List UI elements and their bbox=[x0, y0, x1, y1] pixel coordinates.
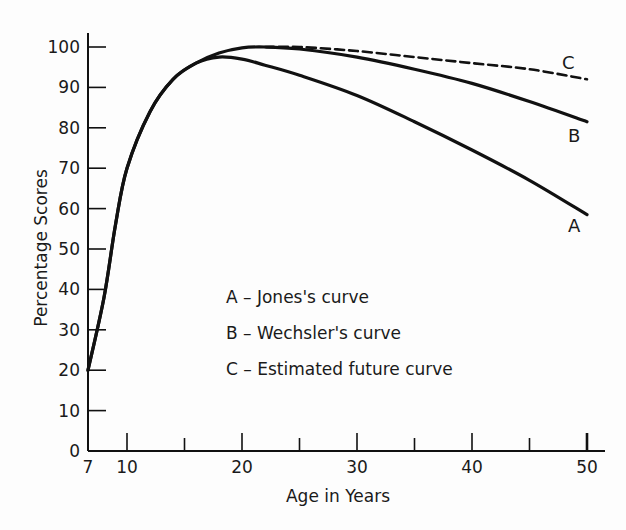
y-tick-label: 70 bbox=[58, 158, 80, 178]
y-tick-label: 50 bbox=[58, 239, 80, 259]
curve-label-a: A bbox=[568, 215, 581, 236]
legend-item-b: B – Wechsler's curve bbox=[226, 323, 401, 343]
y-tick-label: 40 bbox=[58, 279, 80, 299]
y-tick-label: 20 bbox=[58, 360, 80, 380]
y-tick-label: 90 bbox=[58, 77, 80, 97]
curve-b bbox=[88, 47, 587, 370]
x-tick-label: 10 bbox=[116, 457, 138, 477]
y-tick-label: 0 bbox=[69, 441, 80, 461]
legend: A – Jones's curve B – Wechsler's curve C… bbox=[226, 287, 453, 379]
x-tick-label: 30 bbox=[346, 457, 368, 477]
y-tick-label: 30 bbox=[58, 320, 80, 340]
chart-canvas: 0102030405060708090100 71020304050 Age i… bbox=[0, 0, 626, 530]
legend-item-c: C – Estimated future curve bbox=[226, 359, 453, 379]
y-axis-title: Percentage Scores bbox=[31, 169, 51, 327]
curve-label-b: B bbox=[568, 125, 580, 146]
x-tick-label: 40 bbox=[461, 457, 483, 477]
y-axis-ticks: 0102030405060708090100 bbox=[48, 37, 106, 461]
y-tick-label: 10 bbox=[58, 401, 80, 421]
curve-label-c: C bbox=[562, 52, 575, 73]
x-axis-title: Age in Years bbox=[286, 486, 390, 506]
x-tick-label: 50 bbox=[576, 457, 598, 477]
y-tick-label: 100 bbox=[48, 37, 80, 57]
curves bbox=[88, 47, 587, 370]
x-tick-label: 7 bbox=[83, 457, 94, 477]
y-tick-label: 60 bbox=[58, 199, 80, 219]
x-tick-label: 20 bbox=[231, 457, 253, 477]
y-tick-label: 80 bbox=[58, 118, 80, 138]
legend-item-a: A – Jones's curve bbox=[226, 287, 369, 307]
x-axis-ticks: 71020304050 bbox=[83, 433, 598, 477]
axes bbox=[88, 33, 605, 451]
